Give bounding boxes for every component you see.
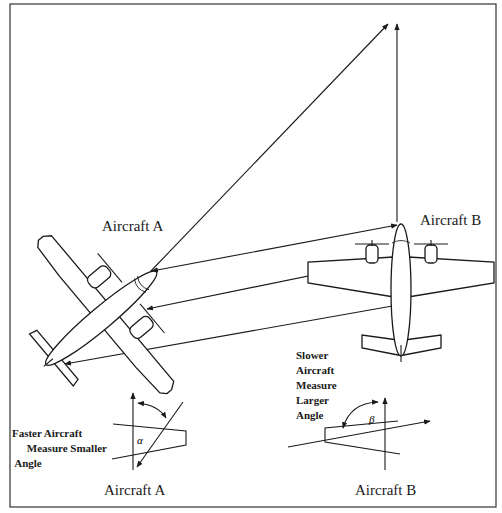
aircraft-b-illustration <box>308 224 494 362</box>
aircraft-b-label: Aircraft B <box>420 212 481 229</box>
faster-note-line-1: Faster Aircraft <box>0 426 107 441</box>
slower-note-line-2: Aircraft <box>296 363 337 378</box>
faster-aircraft-note: Faster Aircraft Measure Smaller Angle <box>0 426 107 471</box>
slower-note-line-3: Measure <box>296 378 337 393</box>
faster-note-line-3: Angle <box>0 456 107 471</box>
slower-note-line-1: Slower <box>296 348 337 363</box>
beta-angle-label: β <box>369 413 374 425</box>
alpha-angle-label: α <box>137 434 143 446</box>
angle-diagram-a <box>112 393 186 470</box>
sight-line-a-to-target <box>150 24 388 272</box>
slower-note-line-4: Larger <box>296 393 337 408</box>
slower-aircraft-note: Slower Aircraft Measure Larger Angle <box>296 348 337 423</box>
slower-note-line-5: Angle <box>296 408 337 423</box>
aircraft-a-label: Aircraft A <box>102 218 163 235</box>
aircraft-a-bottom-label: Aircraft A <box>104 482 165 499</box>
aircraft-b-bottom-label: Aircraft B <box>355 482 416 499</box>
faster-note-line-2: Measure Smaller <box>0 441 107 456</box>
